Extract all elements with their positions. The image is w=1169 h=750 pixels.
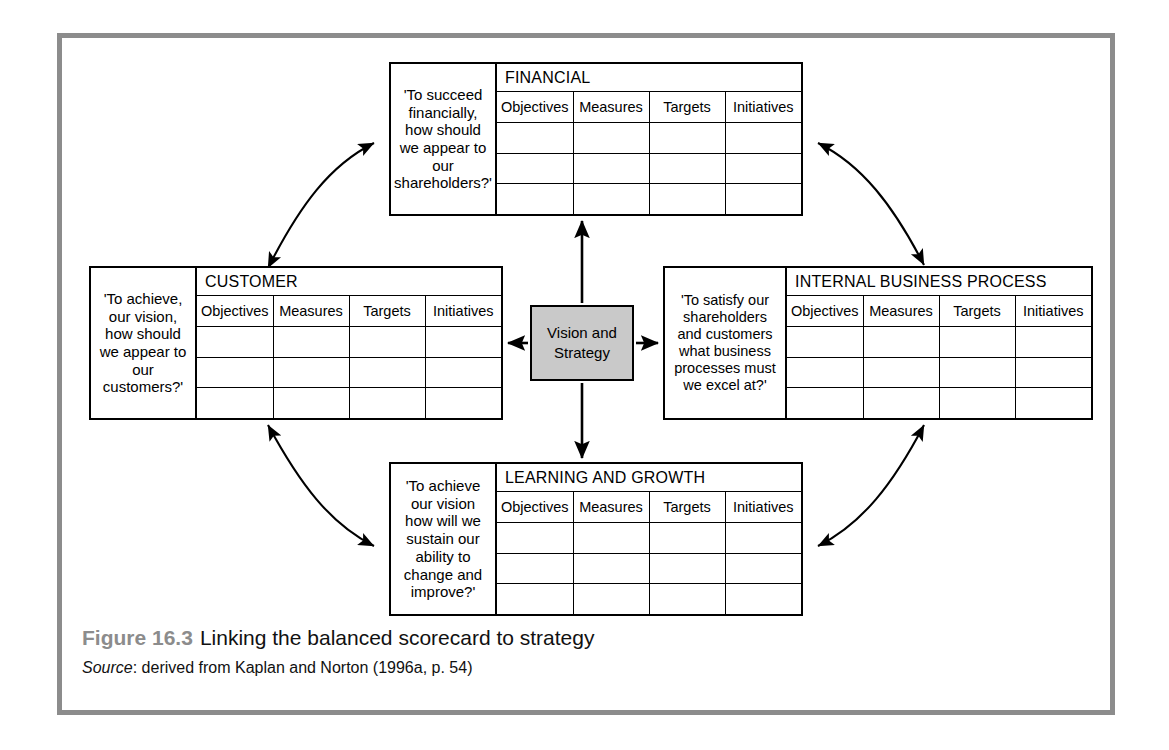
table-cell[interactable] [573,122,649,153]
table-row[interactable] [197,388,501,418]
table-row[interactable] [497,153,801,184]
perspective-panel-financial: 'To succeed financially, how should we a… [389,62,803,216]
table-cell[interactable] [425,326,501,357]
table-cell[interactable] [573,184,649,214]
table-cell[interactable] [349,326,425,357]
panel-body-learning: LEARNING AND GROWTH Objectives Measures … [497,464,801,614]
table-cell[interactable] [425,388,501,418]
table-cell[interactable] [1015,388,1091,418]
table-cell[interactable] [725,522,801,553]
panel-title-learning: LEARNING AND GROWTH [497,464,801,491]
scorecard-table-financial: Objectives Measures Targets Initiatives [497,91,801,214]
column-header-targets: Targets [649,492,725,523]
table-cell[interactable] [497,153,573,184]
panel-question-customer: 'To achieve, our vision, how should we a… [91,268,197,418]
table-cell[interactable] [649,553,725,584]
table-cell[interactable] [649,522,725,553]
table-cell[interactable] [649,184,725,214]
table-header-row: Objectives Measures Targets Initiatives [497,92,801,123]
perspective-panel-customer: 'To achieve, our vision, how should we a… [89,266,503,420]
table-cell[interactable] [273,326,349,357]
table-cell[interactable] [939,388,1015,418]
table-row[interactable] [787,388,1091,418]
vision-label-line2: Strategy [554,344,610,361]
column-header-initiatives: Initiatives [425,296,501,327]
table-cell[interactable] [425,357,501,388]
column-header-measures: Measures [573,492,649,523]
table-row[interactable] [787,357,1091,388]
column-header-initiatives: Initiatives [1015,296,1091,327]
table-cell[interactable] [939,326,1015,357]
table-cell[interactable] [497,184,573,214]
column-header-objectives: Objectives [497,92,573,123]
perspective-panel-learning-and-growth: 'To achieve our vision how will we susta… [389,462,803,616]
table-cell[interactable] [497,122,573,153]
column-header-objectives: Objectives [787,296,863,327]
table-cell[interactable] [725,122,801,153]
table-header-row: Objectives Measures Targets Initiatives [197,296,501,327]
table-cell[interactable] [863,388,939,418]
panel-title-customer: CUSTOMER [197,268,501,295]
scorecard-table-customer: Objectives Measures Targets Initiatives [197,295,501,418]
table-cell[interactable] [273,388,349,418]
perspective-panel-internal-business-process: 'To satisfy our shareholders and custome… [663,266,1093,420]
table-cell[interactable] [787,326,863,357]
table-cell[interactable] [787,357,863,388]
table-cell[interactable] [497,553,573,584]
table-cell[interactable] [497,584,573,614]
table-row[interactable] [497,122,801,153]
table-cell[interactable] [197,326,273,357]
table-row[interactable] [497,184,801,214]
table-cell[interactable] [725,184,801,214]
table-cell[interactable] [725,584,801,614]
table-cell[interactable] [197,388,273,418]
table-cell[interactable] [649,584,725,614]
table-cell[interactable] [863,326,939,357]
table-cell[interactable] [573,553,649,584]
column-header-measures: Measures [863,296,939,327]
figure-source-line: Source: derived from Kaplan and Norton (… [82,659,982,677]
vision-and-strategy-label: Vision and Strategy [547,323,617,364]
table-cell[interactable] [1015,357,1091,388]
table-cell[interactable] [725,553,801,584]
table-cell[interactable] [649,153,725,184]
vision-and-strategy-box: Vision and Strategy [530,305,634,381]
table-header-row: Objectives Measures Targets Initiatives [497,492,801,523]
table-cell[interactable] [939,357,1015,388]
panel-body-financial: FINANCIAL Objectives Measures Targets In… [497,64,801,214]
panel-title-financial: FINANCIAL [497,64,801,91]
panel-title-internal: INTERNAL BUSINESS PROCESS [787,268,1091,295]
table-row[interactable] [197,326,501,357]
scorecard-table-learning: Objectives Measures Targets Initiatives [497,491,801,614]
table-cell[interactable] [273,357,349,388]
table-cell[interactable] [197,357,273,388]
figure-page: 'To succeed financially, how should we a… [0,0,1169,750]
figure-caption-title-line: Figure 16.3Linking the balanced scorecar… [82,626,982,650]
table-cell[interactable] [497,522,573,553]
table-cell[interactable] [573,522,649,553]
column-header-measures: Measures [573,92,649,123]
table-header-row: Objectives Measures Targets Initiatives [787,296,1091,327]
table-cell[interactable] [573,153,649,184]
table-row[interactable] [787,326,1091,357]
column-header-initiatives: Initiatives [725,92,801,123]
table-row[interactable] [497,553,801,584]
figure-caption-block: Figure 16.3Linking the balanced scorecar… [82,626,982,677]
table-row[interactable] [197,357,501,388]
table-cell[interactable] [1015,326,1091,357]
table-cell[interactable] [349,388,425,418]
figure-number: Figure 16.3 [82,626,193,649]
table-cell[interactable] [725,153,801,184]
table-cell[interactable] [349,357,425,388]
table-cell[interactable] [573,584,649,614]
source-label: Source [82,659,133,676]
panel-question-learning: 'To achieve our vision how will we susta… [391,464,497,614]
table-cell[interactable] [649,122,725,153]
table-row[interactable] [497,584,801,614]
table-row[interactable] [497,522,801,553]
column-header-targets: Targets [649,92,725,123]
source-text: : derived from Kaplan and Norton (1996a,… [133,659,473,676]
table-cell[interactable] [863,357,939,388]
table-cell[interactable] [787,388,863,418]
column-header-objectives: Objectives [497,492,573,523]
